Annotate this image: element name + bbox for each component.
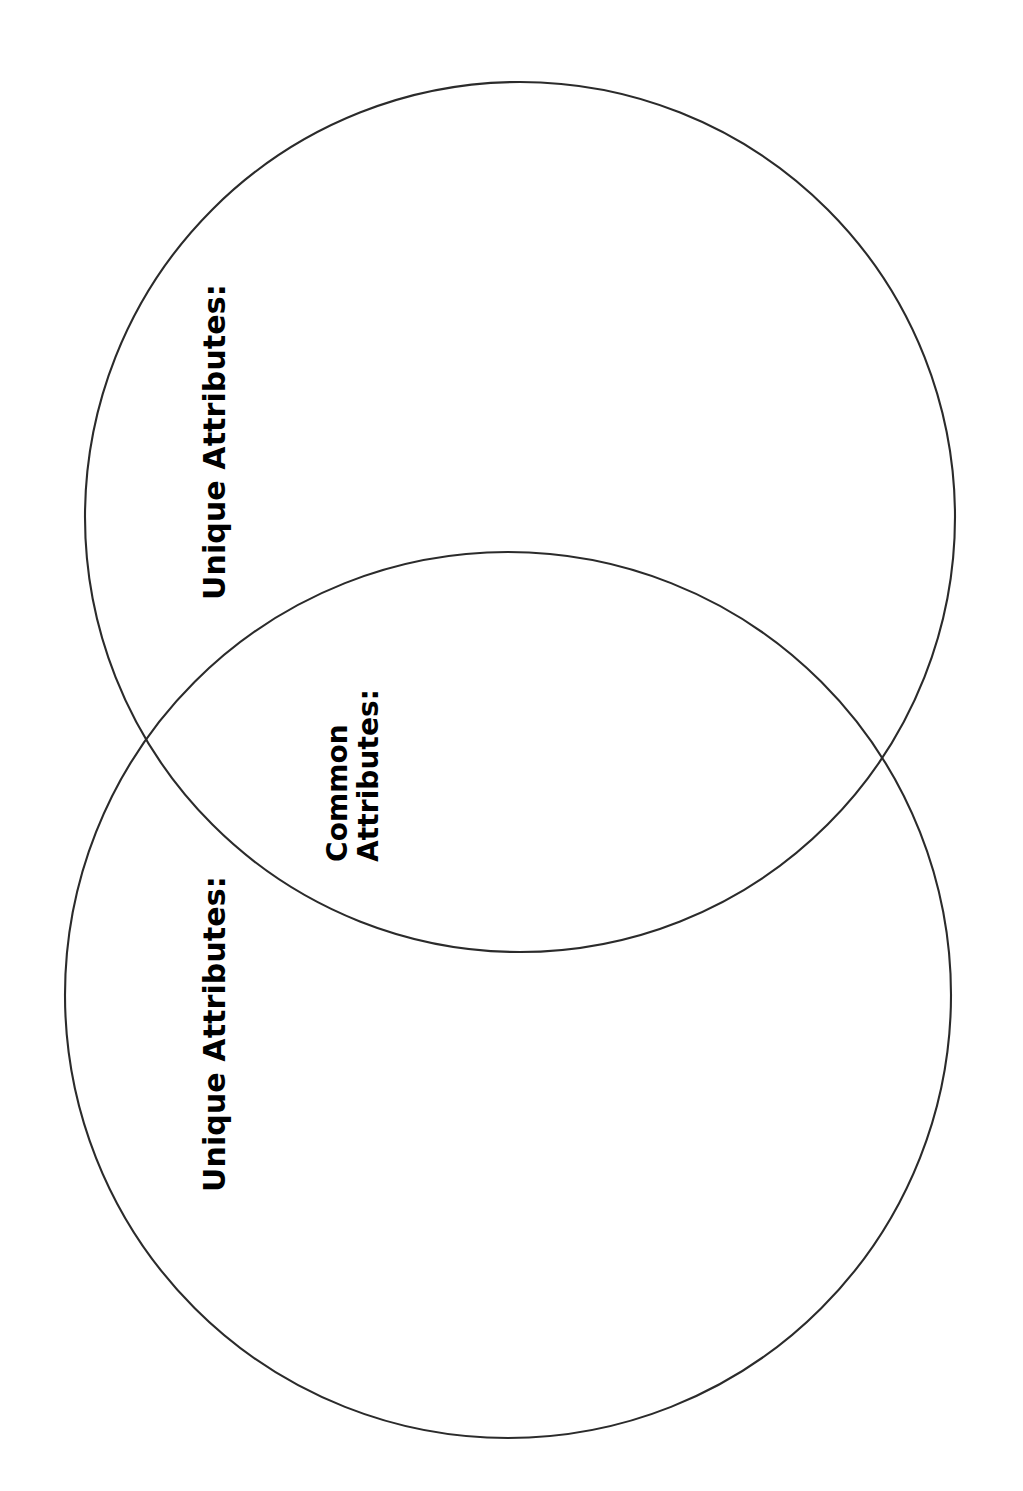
upper-set-circle[interactable]	[85, 82, 955, 952]
venn-diagram-canvas	[0, 0, 1023, 1491]
lower-set-circle[interactable]	[65, 552, 951, 1438]
venn-diagram-page: Unique Attributes: Common Attributes: Un…	[0, 0, 1023, 1491]
